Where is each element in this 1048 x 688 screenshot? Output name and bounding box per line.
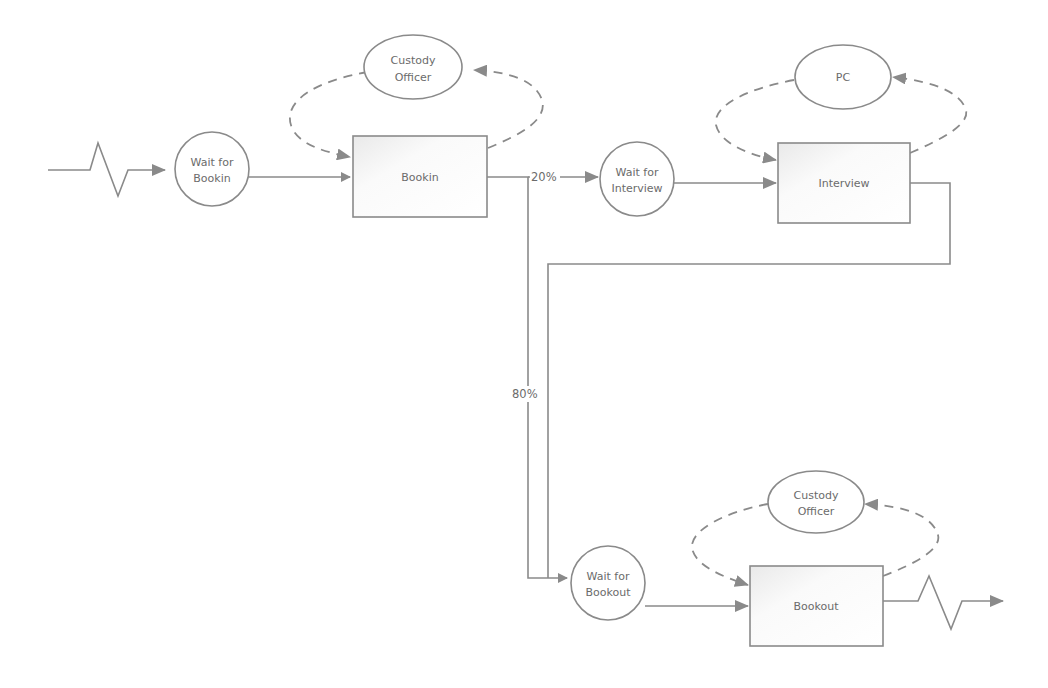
exit-zigzag-arrow <box>883 576 1003 629</box>
node-wait-for-bookin-label-2: Bookin <box>193 172 230 185</box>
node-custody-officer-1-label-1: Custody <box>391 54 436 67</box>
node-wait-for-bookout-label-1: Wait for <box>587 570 630 583</box>
arrival-zigzag-arrow <box>48 143 165 196</box>
node-pc[interactable]: PC <box>795 45 891 109</box>
node-wait-for-bookin[interactable]: Wait for Bookin <box>175 132 249 206</box>
node-bookin-label: Bookin <box>401 171 438 184</box>
node-wait-for-bookin-label-1: Wait for <box>191 156 234 169</box>
node-interview-label: Interview <box>818 177 869 190</box>
edge-bookin-to-wait-bookout <box>487 177 567 578</box>
node-pc-label: PC <box>836 71 851 84</box>
node-bookout[interactable]: Bookout <box>750 566 883 646</box>
node-wait-for-bookout-label-2: Bookout <box>586 586 632 599</box>
node-bookin[interactable]: Bookin <box>353 136 487 217</box>
edge-label-20-percent: 20% <box>531 170 557 184</box>
edge-label-80-percent: 80% <box>512 387 538 401</box>
node-wait-for-interview-label-1: Wait for <box>616 166 659 179</box>
node-wait-for-interview-label-2: Interview <box>611 182 662 195</box>
process-flow-diagram: Wait for Bookin Custody Officer Bookin 2… <box>0 0 1048 688</box>
node-custody-officer-2-label-1: Custody <box>794 489 839 502</box>
node-custody-officer-2[interactable]: Custody Officer <box>768 471 864 533</box>
edge-interview-to-wait-bookout <box>548 183 950 578</box>
node-bookout-label: Bookout <box>794 600 840 613</box>
node-custody-officer-1-label-2: Officer <box>395 71 432 84</box>
node-interview[interactable]: Interview <box>778 143 910 223</box>
node-custody-officer-2-label-2: Officer <box>798 505 835 518</box>
node-wait-for-interview[interactable]: Wait for Interview <box>600 142 674 216</box>
node-wait-for-bookout[interactable]: Wait for Bookout <box>571 546 645 620</box>
node-custody-officer-1[interactable]: Custody Officer <box>364 35 462 99</box>
